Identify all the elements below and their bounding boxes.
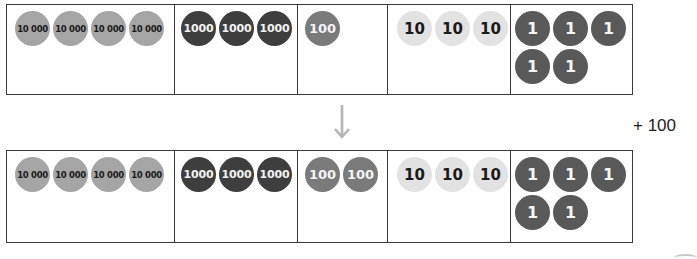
operation-label: + 100 — [633, 116, 676, 136]
column-ones: 1 1 1 1 1 — [511, 5, 632, 94]
coin-10000: 10 000 — [15, 157, 50, 192]
coin-10000: 10 000 — [91, 157, 126, 192]
coin-10: 10 — [397, 11, 432, 46]
coin-10000: 10 000 — [91, 11, 126, 46]
coin-1: 1 — [515, 49, 550, 84]
column-hundreds: 100 — [298, 5, 388, 94]
coin-1000: 1000 — [219, 11, 254, 46]
coin-10000: 10 000 — [15, 11, 50, 46]
coin-1: 1 — [515, 11, 550, 46]
coin-1000: 1000 — [181, 11, 216, 46]
coin-1000: 1000 — [181, 157, 216, 192]
coin-100: 100 — [305, 11, 340, 46]
coin-1: 1 — [553, 11, 588, 46]
coin-10000: 10 000 — [129, 157, 164, 192]
coin-1000: 1000 — [257, 11, 292, 46]
column-hundreds: 100 100 — [298, 151, 388, 242]
coin-10: 10 — [397, 157, 432, 192]
coin-1: 1 — [591, 157, 626, 192]
coin-10000: 10 000 — [53, 157, 88, 192]
place-value-board-after: 10 000 10 000 10 000 10 000 1000 1000 10… — [6, 150, 633, 243]
coin-10: 10 — [435, 11, 470, 46]
column-thousands: 1000 1000 1000 — [175, 5, 298, 94]
coin-10: 10 — [473, 11, 508, 46]
coin-10: 10 — [473, 157, 508, 192]
down-arrow-icon — [333, 104, 351, 140]
coin-1: 1 — [553, 195, 588, 230]
coin-1: 1 — [553, 49, 588, 84]
coin-100: 100 — [305, 157, 340, 192]
coin-10: 10 — [435, 157, 470, 192]
coin-10000: 10 000 — [53, 11, 88, 46]
place-value-board-before: 10 000 10 000 10 000 10 000 1000 1000 10… — [6, 4, 633, 95]
coin-1000: 1000 — [257, 157, 292, 192]
column-tens: 10 10 10 — [388, 5, 511, 94]
column-thousands: 1000 1000 1000 — [175, 151, 298, 242]
partial-shape-decoration — [674, 254, 697, 259]
column-ten-thousands: 10 000 10 000 10 000 10 000 — [7, 5, 175, 94]
column-ones: 1 1 1 1 1 — [511, 151, 632, 242]
coin-10000: 10 000 — [129, 11, 164, 46]
column-ten-thousands: 10 000 10 000 10 000 10 000 — [7, 151, 175, 242]
coin-1: 1 — [515, 195, 550, 230]
coin-1: 1 — [515, 157, 550, 192]
column-tens: 10 10 10 — [388, 151, 511, 242]
coin-1: 1 — [591, 11, 626, 46]
coin-1: 1 — [553, 157, 588, 192]
coin-1000: 1000 — [219, 157, 254, 192]
coin-100: 100 — [343, 157, 378, 192]
